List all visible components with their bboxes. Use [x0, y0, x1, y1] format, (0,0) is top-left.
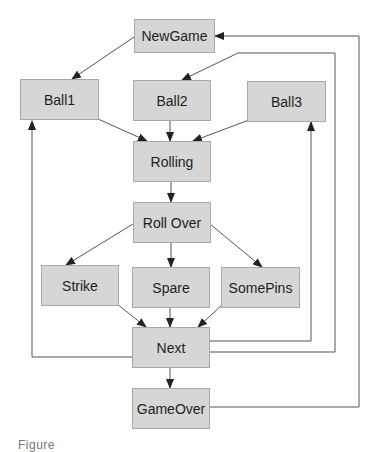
node-somepins: SomePins [221, 267, 300, 308]
node-newgame: NewGame [134, 19, 215, 53]
node-ball1: Ball1 [20, 79, 99, 120]
node-newgame-label: NewGame [141, 28, 207, 44]
node-next-label: Next [157, 340, 186, 356]
node-next: Next [132, 327, 210, 368]
node-ball1-label: Ball1 [44, 92, 75, 108]
node-strike: Strike [41, 265, 119, 306]
edge-ball1-rolling [98, 119, 147, 141]
node-ball2: Ball2 [133, 80, 211, 121]
edge-rollover-somepins [210, 224, 262, 267]
node-gameover: GameOver [132, 388, 210, 429]
node-somepins-label: SomePins [229, 280, 293, 296]
node-rolling: Rolling [133, 141, 211, 182]
node-strike-label: Strike [62, 278, 98, 294]
edge-rollover-strike [66, 224, 133, 265]
node-ball2-label: Ball2 [156, 93, 187, 109]
edge-newgame-ball1 [72, 37, 134, 79]
node-ball3: Ball3 [247, 81, 326, 122]
node-spare-label: Spare [152, 280, 189, 296]
node-rollover-label: Roll Over [143, 215, 201, 231]
edge-somepins-next [198, 305, 222, 327]
edge-next-ball3 [209, 122, 311, 341]
figure-caption: Figure [18, 438, 55, 452]
node-gameover-label: GameOver [137, 401, 205, 417]
edge-next-ball1 [32, 121, 132, 357]
node-rolling-label: Rolling [151, 154, 194, 170]
node-ball3-label: Ball3 [271, 94, 302, 110]
edge-ball3-rolling [193, 120, 249, 141]
node-spare: Spare [132, 267, 210, 308]
node-rollover: Roll Over [133, 202, 211, 243]
